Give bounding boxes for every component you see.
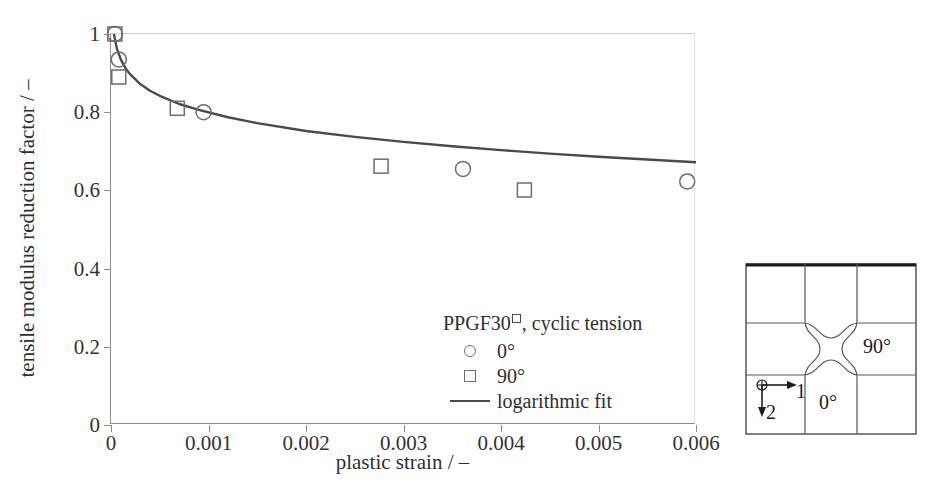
legend-title: PPGF30, cyclic tension	[443, 313, 642, 333]
inset-label-axis-1: 1	[796, 380, 806, 403]
chart-figure: 00.20.40.60.81 00.0010.0020.0030.0040.00…	[0, 0, 932, 498]
legend-title-condition: , cyclic tension	[522, 312, 643, 334]
chart-legend: PPGF30, cyclic tension 0° 90° logarithmi…	[443, 313, 642, 413]
y-tick-label: 1	[90, 24, 101, 45]
legend-key-square	[443, 370, 497, 382]
superscript-square-icon	[512, 314, 521, 323]
data-point-marker	[680, 174, 695, 189]
legend-item-90deg: 90°	[443, 363, 642, 388]
y-tick-label: 0	[90, 415, 101, 436]
legend-key-circle	[443, 345, 497, 357]
y-tick-label: 0.2	[74, 336, 100, 357]
data-point-marker	[374, 159, 388, 173]
legend-label-fit: logarithmic fit	[497, 391, 612, 411]
legend-title-material: PPGF30	[443, 312, 511, 334]
square-marker-icon	[464, 370, 476, 382]
fit-curve-path	[114, 34, 696, 162]
x-axis-title: plastic strain / –	[110, 450, 695, 475]
y-tick-mark	[104, 269, 111, 270]
y-tick-label: 0.4	[74, 258, 100, 279]
inset-label-90deg: 90°	[863, 335, 891, 358]
y-tick-mark	[104, 34, 111, 35]
legend-item-fit: logarithmic fit	[443, 388, 642, 413]
data-point-marker	[517, 183, 531, 197]
data-point-marker	[112, 70, 126, 84]
circle-marker-icon	[464, 345, 476, 357]
y-tick-label: 0.6	[74, 180, 100, 201]
legend-label-0deg: 0°	[497, 341, 515, 361]
legend-item-0deg: 0°	[443, 338, 642, 363]
y-tick-mark	[104, 112, 111, 113]
specimen-cutout-diagram: 90° 0° 1 2	[745, 263, 917, 435]
inset-label-axis-2: 2	[766, 401, 776, 424]
y-tick-label: 0.8	[74, 102, 100, 123]
data-point-marker	[455, 161, 470, 176]
y-tick-mark	[104, 425, 111, 426]
y-tick-mark	[104, 190, 111, 191]
logarithmic-fit-line	[114, 34, 696, 162]
series-90deg-markers	[108, 27, 532, 197]
y-tick-mark	[104, 347, 111, 348]
solid-line-icon	[450, 400, 490, 402]
legend-key-line	[443, 400, 497, 402]
y-axis-title: tensile modulus reduction factor / –	[14, 33, 40, 424]
inset-label-0deg: 0°	[819, 391, 837, 414]
legend-label-90deg: 90°	[497, 366, 525, 386]
